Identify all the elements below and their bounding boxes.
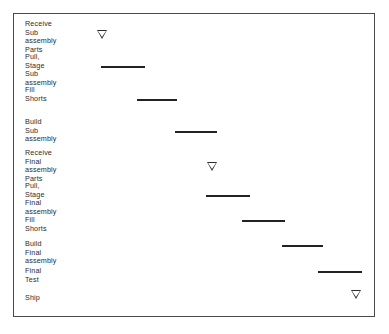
gantt-task-label: Build Final assembly (25, 240, 57, 266)
gantt-task-label: Ship (25, 294, 40, 303)
gantt-bar (101, 66, 145, 68)
gantt-task-label: Receive Sub assembly Parts (25, 20, 57, 54)
gantt-milestone-triangle-icon (97, 30, 107, 39)
gantt-milestone-triangle-icon (207, 162, 217, 171)
gantt-bar (175, 131, 217, 133)
gantt-task-label: Build Sub assembly (25, 118, 57, 144)
gantt-task-label: Fill Shorts (25, 86, 47, 103)
gantt-milestone-triangle-icon (351, 290, 361, 299)
gantt-chart-frame: Receive Sub assembly PartsPull, Stage Su… (13, 13, 375, 317)
gantt-task-label: Pull, Stage Sub assembly (25, 53, 57, 87)
gantt-bar (318, 271, 362, 273)
gantt-bar (242, 220, 285, 222)
gantt-task-label: Receive Final assembly Parts (25, 149, 57, 183)
gantt-bar (206, 195, 250, 197)
gantt-task-label: Fill Shorts (25, 216, 47, 233)
gantt-bar (137, 99, 177, 101)
gantt-task-label: Pull, Stage Final assembly (25, 182, 57, 216)
gantt-task-label: Final Test (25, 267, 41, 284)
gantt-bar (282, 245, 323, 247)
gantt-plot-area: Receive Sub assembly PartsPull, Stage Su… (14, 14, 374, 316)
